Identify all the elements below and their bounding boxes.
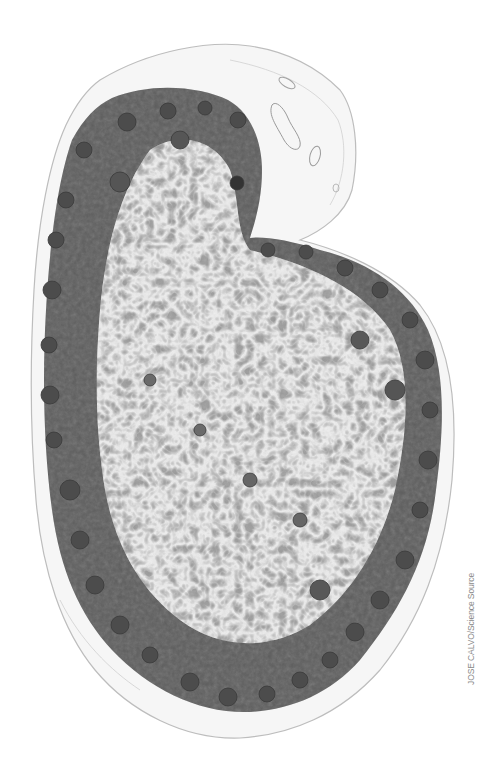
lymph-node-micrograph [0,0,490,765]
photo-credit: JOSE CALVO/Science Source [466,573,476,685]
